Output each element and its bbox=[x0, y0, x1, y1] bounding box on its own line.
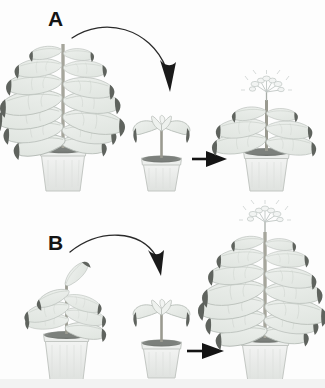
plant-pot bbox=[244, 148, 290, 191]
medium-donor-plant bbox=[22, 258, 108, 380]
panel-a: A bbox=[0, 0, 325, 194]
plant-foliage bbox=[196, 234, 325, 351]
flower-cluster bbox=[241, 70, 292, 101]
large-flowering-result-plant bbox=[196, 200, 325, 382]
plant-pot bbox=[142, 155, 182, 191]
small-recipient-plant bbox=[133, 299, 190, 378]
plant-foliage bbox=[22, 258, 108, 343]
large-donor-plant bbox=[0, 44, 127, 191]
small-flowering-result-plant bbox=[210, 70, 318, 191]
figure-canvas: A bbox=[0, 0, 325, 388]
panel-b-graphics bbox=[0, 194, 325, 388]
panel-a-graphics bbox=[0, 0, 325, 194]
small-recipient-plant bbox=[133, 115, 190, 191]
plant-pot bbox=[142, 339, 182, 378]
flower-cluster bbox=[239, 200, 291, 232]
footer-band bbox=[0, 379, 325, 388]
panel-b: B bbox=[0, 194, 325, 388]
